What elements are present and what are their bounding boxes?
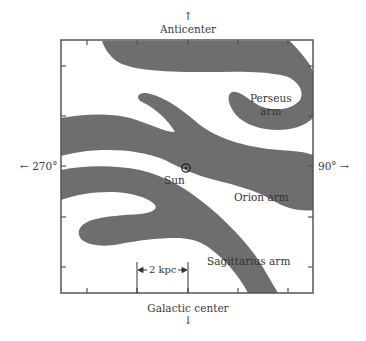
sagittarius-arm-label: Sagittarius arm: [207, 255, 290, 267]
perseus-arm-label: Perseus arm: [250, 92, 292, 118]
90-degree-label: 90° →: [318, 160, 349, 172]
sun-label: Sun: [164, 174, 185, 186]
up-arrow-icon: ↑: [183, 10, 192, 23]
perseus-label-line2: arm: [250, 105, 292, 118]
perseus-label-line1: Perseus: [250, 92, 292, 105]
orion-arm-label: Orion arm: [234, 191, 289, 203]
scale-bar-label: 2 kpc: [149, 264, 177, 275]
270-degree-label: ← 270°: [20, 160, 57, 172]
anticenter-label: Anticenter: [160, 23, 216, 35]
galactic-center-label: Galactic center: [147, 302, 228, 314]
down-arrow-icon: ↓: [183, 314, 192, 327]
